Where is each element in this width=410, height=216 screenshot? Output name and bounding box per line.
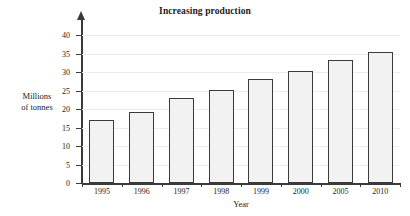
x-axis-tick	[201, 183, 202, 187]
y-axis-tick-label: 30	[44, 68, 70, 77]
grid-line	[82, 35, 400, 36]
x-axis-tick-label: 1998	[213, 187, 229, 196]
bar-1998	[209, 90, 234, 183]
bar-chart: Increasing production 0510152025303540 1…	[0, 0, 410, 216]
y-axis-title: Millions of tonnes	[8, 91, 66, 113]
bar-2005	[328, 60, 353, 183]
y-axis-tick-label: 35	[44, 49, 70, 58]
x-axis-tick	[321, 183, 322, 187]
grid-line	[82, 54, 400, 55]
x-axis-tick	[162, 183, 163, 187]
bar-1995	[89, 120, 114, 183]
y-axis-tick-label: 40	[44, 31, 70, 40]
x-axis-tick-label: 2010	[372, 187, 388, 196]
y-axis-tick-label: 15	[44, 123, 70, 132]
x-axis-tick-label: 1995	[94, 187, 110, 196]
plot-area	[82, 35, 400, 183]
chart-title: Increasing production	[0, 6, 410, 16]
x-axis-tick-label: 2005	[332, 187, 348, 196]
y-axis-tick-label: 0	[44, 179, 70, 188]
x-axis-tick-label: 2000	[293, 187, 309, 196]
bar-2010	[368, 52, 393, 183]
bar-1997	[169, 98, 194, 183]
x-axis-tick-label: 1997	[173, 187, 189, 196]
bar-1999	[248, 79, 273, 183]
y-axis-title-line2: of tonnes	[8, 102, 66, 113]
x-axis-tick	[241, 183, 242, 187]
x-axis-tick	[360, 183, 361, 187]
y-axis-tick-label: 10	[44, 142, 70, 151]
bar-2000	[288, 71, 313, 183]
x-axis-tick-label: 1999	[253, 187, 269, 196]
y-axis-title-line1: Millions	[8, 91, 66, 102]
bar-1996	[129, 112, 154, 183]
x-axis-tick-label: 1996	[134, 187, 150, 196]
x-axis-tick	[82, 183, 83, 187]
x-axis-tick	[400, 183, 401, 187]
x-axis-title: Year	[82, 199, 400, 209]
x-axis-tick	[281, 183, 282, 187]
x-axis-tick	[122, 183, 123, 187]
y-axis-tick-label: 5	[44, 160, 70, 169]
